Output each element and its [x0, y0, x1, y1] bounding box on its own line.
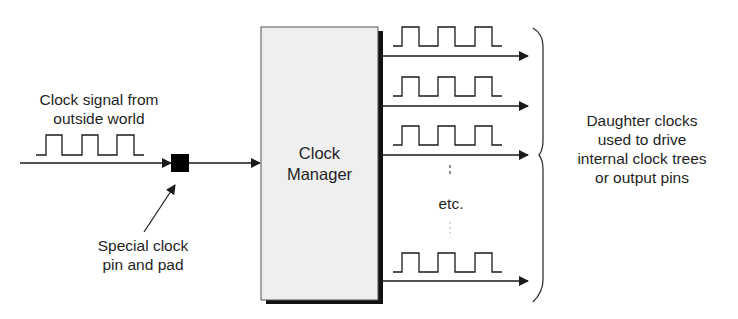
output-clock-3: [380, 126, 528, 155]
input-label: Clock signal from outside world: [14, 90, 184, 128]
daughter-label-line4: or output pins: [550, 168, 734, 187]
pad-label-line2: pin and pad: [78, 255, 208, 274]
daughter-clocks-label: Daughter clocks used to drive internal c…: [550, 111, 734, 187]
pad-pointer-arrow: [144, 185, 175, 232]
daughter-label-line2: used to drive: [550, 130, 734, 149]
output-clock-2: [380, 77, 528, 106]
clock-pad-icon: [171, 154, 189, 172]
pad-label: Special clock pin and pad: [78, 236, 208, 274]
clock-manager-label-line1: Clock: [261, 143, 378, 164]
clock-manager-label-line2: Manager: [261, 164, 378, 185]
output-clock-4: [380, 253, 528, 281]
etc-label: etc.: [420, 194, 482, 213]
daughter-clocks-brace: [533, 28, 543, 302]
output-clock-1: [380, 27, 528, 56]
daughter-label-line1: Daughter clocks: [550, 111, 734, 130]
pad-label-line1: Special clock: [78, 236, 208, 255]
input-label-line2: outside world: [14, 109, 184, 128]
etc-text: etc.: [439, 195, 464, 212]
clock-manager-label: Clock Manager: [261, 143, 378, 185]
daughter-label-line3: internal clock trees: [550, 149, 734, 168]
input-clock-waveform: [36, 135, 144, 155]
input-label-line1: Clock signal from: [14, 90, 184, 109]
